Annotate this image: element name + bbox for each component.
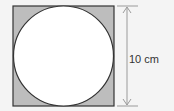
dimension-label: 10 cm (129, 53, 159, 65)
inscribed-circle (14, 6, 114, 106)
